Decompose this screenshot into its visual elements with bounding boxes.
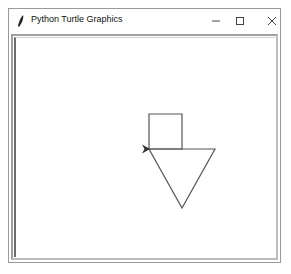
square-shape: [149, 114, 182, 149]
triangle-shape: [149, 149, 215, 208]
turtle-drawing: [0, 0, 291, 274]
